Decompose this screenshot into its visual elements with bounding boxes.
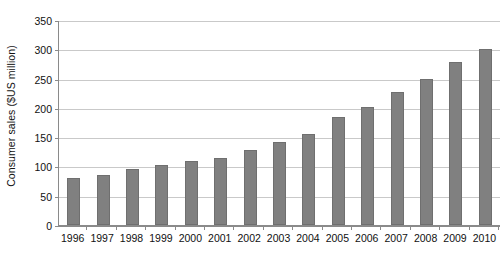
x-axis-tick-cell (470, 226, 499, 231)
bar[interactable] (214, 158, 227, 225)
bar-slot (294, 21, 323, 225)
y-axis-tick-label: 50 (40, 191, 52, 203)
bar-slot (471, 21, 500, 225)
x-axis-tick-cell (117, 226, 146, 231)
x-axis-tick-cell (381, 226, 410, 231)
x-axis-tick-label: 2003 (264, 232, 293, 250)
x-axis-tick-label: 2008 (411, 232, 440, 250)
y-axis-tick-label: 0 (46, 220, 52, 232)
x-axis-tick-label: 2009 (440, 232, 469, 250)
bar-slot (59, 21, 88, 225)
x-axis-tick-label: 1999 (146, 232, 175, 250)
x-axis-tick-cell (87, 226, 116, 231)
y-axis-tick-label: 200 (34, 103, 52, 115)
bar-slot (265, 21, 294, 225)
y-axis-tick-label: 300 (34, 44, 52, 56)
x-axis-tick-label: 1996 (58, 232, 87, 250)
bar[interactable] (479, 49, 492, 225)
bar[interactable] (155, 165, 168, 225)
x-axis-tick-label: 2006 (352, 232, 381, 250)
y-axis-tick-label: 250 (34, 74, 52, 86)
bar-slot (177, 21, 206, 225)
x-axis-tick-label: 2000 (176, 232, 205, 250)
bar[interactable] (361, 107, 374, 225)
x-axis-tick-label: 1998 (117, 232, 146, 250)
x-axis-tick-cell (234, 226, 263, 231)
bar-slot (206, 21, 235, 225)
y-axis-tick-label: 100 (34, 161, 52, 173)
bar-slot (441, 21, 470, 225)
bar-slot (147, 21, 176, 225)
x-axis-tick-mark (498, 226, 499, 230)
x-axis-tick-label: 2005 (323, 232, 352, 250)
bar[interactable] (302, 134, 315, 225)
bar-slot (412, 21, 441, 225)
x-axis-tick-cell (352, 226, 381, 231)
bar[interactable] (332, 117, 345, 225)
y-axis-tick-label: 350 (34, 15, 52, 27)
x-axis-tick-labels: 1996199719981999200020012002200320042005… (58, 232, 499, 250)
x-axis-tick-label: 2010 (470, 232, 499, 250)
bar-slot (353, 21, 382, 225)
bar[interactable] (391, 92, 404, 225)
bar[interactable] (97, 175, 110, 225)
bar[interactable] (185, 161, 198, 225)
plot-area (58, 21, 500, 226)
x-axis-tick-cell (293, 226, 322, 231)
bar[interactable] (126, 169, 139, 225)
bar-slot (118, 21, 147, 225)
x-axis-tick-cell (205, 226, 234, 231)
x-axis-tick-cell (440, 226, 469, 231)
x-axis-tick-cell (146, 226, 175, 231)
x-axis-tick-label: 1997 (87, 232, 116, 250)
x-axis-tick-cell (411, 226, 440, 231)
y-axis-tick-labels: 050100150200250300350 (22, 0, 56, 232)
bar[interactable] (420, 79, 433, 225)
y-axis-title: Consumer sales ($US million) (0, 0, 22, 232)
bar[interactable] (273, 142, 286, 225)
x-axis-tick-cell (323, 226, 352, 231)
x-axis-tick-label: 2007 (381, 232, 410, 250)
x-axis-tick-cell (176, 226, 205, 231)
bar-chart: Consumer sales ($US million) 05010015020… (0, 0, 503, 257)
y-axis-tick-label: 150 (34, 132, 52, 144)
bar-slot (235, 21, 264, 225)
x-axis-tick-label: 2004 (293, 232, 322, 250)
x-axis-tick-cell (264, 226, 293, 231)
bar-slot (88, 21, 117, 225)
x-axis-tick-label: 2001 (205, 232, 234, 250)
bar[interactable] (449, 62, 462, 225)
y-axis-title-text: Consumer sales ($US million) (5, 45, 17, 187)
bar-slot (382, 21, 411, 225)
bar-slot (324, 21, 353, 225)
x-axis-tick-cell (58, 226, 87, 231)
bar[interactable] (244, 150, 257, 225)
x-axis-tick-marks (58, 226, 499, 231)
bar[interactable] (67, 178, 80, 225)
bars-container (59, 21, 500, 225)
x-axis-tick-label: 2002 (234, 232, 263, 250)
